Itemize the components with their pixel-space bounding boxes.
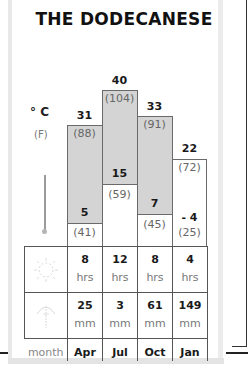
rainfall-row: 25mm 3mm 61mm 149mm bbox=[25, 293, 208, 339]
umbrella-icon-cell bbox=[25, 293, 68, 339]
month-apr: Apr bbox=[68, 339, 103, 362]
rain-cell-oct: 61mm bbox=[138, 293, 173, 339]
sun-cell-oct: 8hrs bbox=[138, 247, 173, 293]
rain-cell-jul: 3mm bbox=[103, 293, 138, 339]
sun-cell-apr: 8hrs bbox=[68, 247, 103, 293]
max-c-apr: 31 bbox=[67, 109, 102, 122]
page-rule-left bbox=[0, 352, 8, 354]
sun-icon bbox=[32, 256, 60, 284]
chart-title: THE DODECANESE bbox=[0, 9, 248, 29]
sun-icon-cell bbox=[25, 247, 68, 293]
max-c-jan: 22 bbox=[172, 142, 207, 155]
sun-cell-jan: 4hrs bbox=[173, 247, 208, 293]
month-jan: Jan bbox=[173, 339, 208, 362]
max-c-oct: 33 bbox=[137, 100, 172, 113]
frame-border-left bbox=[8, 0, 12, 362]
max-f-jul: (104) bbox=[102, 92, 137, 105]
sun-cell-jul: 12hrs bbox=[103, 247, 138, 293]
min-c-jan: - 4 bbox=[172, 211, 207, 224]
frame-border-right bbox=[218, 0, 223, 362]
thermometer-icon bbox=[44, 175, 46, 230]
max-f-jan: (72) bbox=[172, 161, 207, 174]
min-c-oct: 7 bbox=[137, 197, 172, 210]
month-oct: Oct bbox=[138, 339, 173, 362]
max-c-jul: 40 bbox=[102, 74, 137, 87]
min-f-jan: (25) bbox=[172, 226, 207, 239]
umbrella-icon bbox=[34, 300, 58, 332]
min-c-apr: 5 bbox=[67, 206, 102, 219]
min-c-jul: 15 bbox=[102, 167, 137, 180]
celsius-label: ° C bbox=[30, 105, 49, 119]
month-label-cell: month bbox=[25, 339, 68, 362]
rain-cell-jan: 149mm bbox=[173, 293, 208, 339]
rain-cell-apr: 25mm bbox=[68, 293, 103, 339]
adjacent-panel-edge bbox=[232, 0, 247, 347]
climate-stats-table: 8hrs 12hrs 8hrs 4hrs 25mm 3mm 61mm 149mm… bbox=[24, 246, 208, 361]
min-f-apr: (41) bbox=[67, 226, 102, 239]
page-rule-right bbox=[226, 352, 248, 354]
max-f-oct: (91) bbox=[137, 118, 172, 131]
fahrenheit-label: (F) bbox=[34, 129, 48, 140]
max-f-apr: (88) bbox=[67, 127, 102, 140]
min-f-jul: (59) bbox=[102, 188, 137, 201]
min-f-oct: (45) bbox=[137, 218, 172, 231]
sunshine-row: 8hrs 12hrs 8hrs 4hrs bbox=[25, 247, 208, 293]
month-row: month Apr Jul Oct Jan bbox=[25, 339, 208, 362]
thermometer-bulb-icon bbox=[42, 229, 47, 234]
month-jul: Jul bbox=[103, 339, 138, 362]
